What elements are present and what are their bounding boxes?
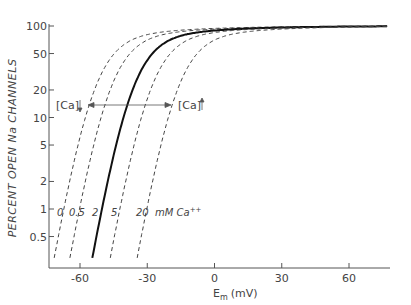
chart: 1005020105210.5 -60-3003060 PERCENT OPEN…	[0, 0, 411, 305]
x-tick-label: -30	[138, 272, 156, 285]
x-tick-label: -60	[71, 272, 89, 285]
curve-2-mM	[92, 26, 387, 258]
curve-unit-label: mM Ca++	[155, 206, 202, 218]
y-ticks: 1005020105210.5	[26, 20, 54, 244]
curves	[54, 26, 387, 258]
x-ticks: -60-3003060	[71, 263, 356, 285]
x-tick-label: 30	[275, 272, 289, 285]
curve-20-mM	[137, 27, 387, 258]
y-tick-label: 5	[40, 139, 47, 152]
y-tick-label: 1	[40, 203, 47, 216]
y-tick-label: 0.5	[30, 231, 48, 244]
x-axis-title: Em(mV)	[213, 287, 258, 302]
x-tick-label: 0	[211, 272, 218, 285]
y-tick-label: 50	[33, 48, 47, 61]
x-tick-label: 60	[342, 272, 356, 285]
curve-0-mM	[54, 26, 387, 258]
y-tick-label: 2	[40, 175, 47, 188]
y-axis-title: PERCENT OPEN Na CHANNELS	[6, 59, 19, 238]
curve-label-20: 20	[136, 207, 149, 218]
ca-shift-arrow	[88, 103, 171, 108]
y-tick-label: 10	[33, 112, 47, 125]
axes	[49, 24, 390, 268]
ca-decrease-label: [Ca]	[56, 99, 79, 112]
curve-label-5: 5	[111, 207, 117, 218]
curve-label-0: 0	[57, 207, 63, 218]
y-tick-label: 100	[26, 20, 47, 33]
curve-5-mM	[110, 26, 387, 258]
y-tick-label: 20	[33, 84, 47, 97]
ca-increase-label: [Ca]	[178, 99, 201, 112]
curve-label-0.5: 0.5	[69, 207, 85, 218]
curve-label-2: 2	[92, 207, 98, 218]
